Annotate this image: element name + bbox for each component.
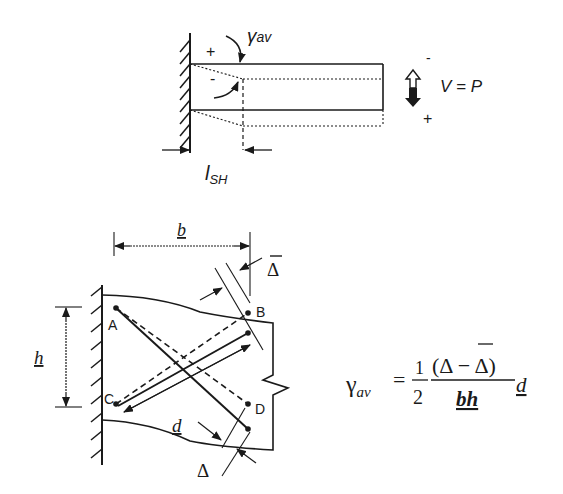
beam-outline — [190, 64, 383, 110]
negative-rotation-arrow — [214, 82, 238, 98]
point-c-label: C — [104, 391, 114, 407]
minus-sign: - — [210, 70, 215, 87]
frac2-numerator: (Δ − Δ) — [432, 353, 496, 378]
diagonal-c — [118, 333, 248, 406]
formula-trailing-d: d — [516, 373, 527, 397]
frac1-denominator: 2 — [413, 386, 423, 408]
wall-hatching — [180, 40, 190, 148]
shear-direction-icon — [405, 70, 421, 107]
d-dimension-arrow — [124, 345, 250, 412]
deformed-beam — [190, 64, 383, 126]
gamma-label: γav — [247, 25, 272, 46]
shear-plus-sign: + — [423, 110, 432, 127]
point-a-label: A — [108, 317, 118, 333]
h-label: h — [34, 347, 44, 368]
shear-strain-formula: γav = 1 2 (Δ − Δ) bh d — [345, 344, 527, 411]
wall-hatching — [91, 287, 102, 458]
shear-label: V = P — [440, 77, 483, 96]
delta-bar-label: Δ — [267, 259, 279, 280]
shear-strain-diagram: γav + - lSH - + V = P — [0, 0, 563, 494]
frac1-numerator: 1 — [415, 358, 424, 378]
length-label: lSH — [205, 162, 228, 187]
point-d-label: D — [255, 401, 265, 417]
cantilever-beam-diagram: γav + - lSH - + V = P — [162, 25, 483, 187]
delta-arrow — [237, 449, 256, 463]
formula-equals: = — [393, 367, 405, 392]
frac2-denominator: bh — [456, 387, 478, 411]
panel-deformation-diagram: b h d A B C D Δ — [34, 220, 288, 481]
b-label: b — [177, 220, 186, 240]
point-b-label: B — [256, 304, 265, 320]
delta-bar-arrow — [240, 258, 262, 270]
delta-label: Δ — [197, 460, 209, 481]
shear-minus-sign: - — [426, 50, 431, 66]
diagonal-a — [116, 308, 248, 429]
positive-rotation-arrow — [226, 36, 241, 62]
formula-lhs: γav — [345, 371, 371, 400]
d-label: d — [172, 415, 182, 436]
plus-sign: + — [206, 43, 215, 60]
